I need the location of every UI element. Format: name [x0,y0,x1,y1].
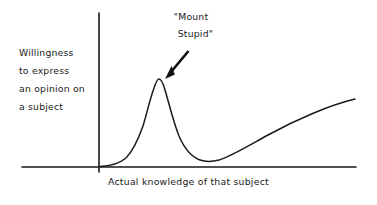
chart-canvas: Willingness to express an opinion on a s… [0,0,377,205]
y-axis-label-line-2: to express [19,62,85,80]
annotation-arrow-shaft [171,51,189,72]
x-axis-label: Actual knowledge of that subject [0,176,377,187]
y-axis-label-line-3: an opinion on [19,80,85,98]
y-axis-label-line-4: a subject [19,98,85,116]
dunning-kruger-curve [100,79,355,167]
y-axis-label-line-1: Willingness [19,44,85,62]
mount-stupid-annotation: "Mount Stupid" [148,8,234,42]
annotation-line-1: "Mount [148,8,234,25]
annotation-line-2: Stupid" [148,25,234,42]
y-axis-label: Willingness to express an opinion on a s… [19,44,85,116]
